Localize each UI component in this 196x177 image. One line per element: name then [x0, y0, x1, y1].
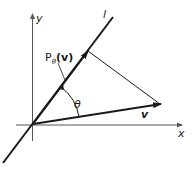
- x-axis-label: x: [177, 127, 185, 140]
- projection-label: Pθ(v): [45, 51, 73, 66]
- line-l-label: l: [103, 8, 106, 21]
- label-leader: [58, 63, 65, 80]
- y-axis-label: y: [35, 12, 43, 25]
- perpendicular-segment: [88, 51, 160, 104]
- projection-diagram: y x l Pθ(v) θ v: [0, 0, 196, 177]
- angle-label: θ: [74, 98, 81, 111]
- vector-v-label: v: [141, 108, 149, 121]
